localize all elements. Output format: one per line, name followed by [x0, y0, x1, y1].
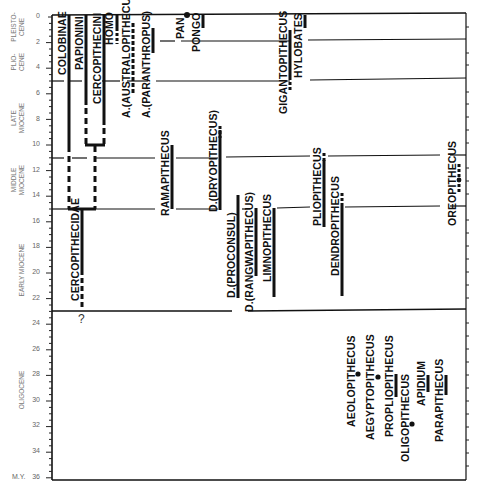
y-tick-34: 34: [24, 447, 40, 454]
y-axis-unit-label: M.Y.: [12, 473, 26, 480]
uncertain-origin-marker: ?: [78, 312, 85, 326]
y-tick-18: 18: [24, 242, 40, 249]
taxon-label-oreopithecus: OREOPITHECUS: [447, 141, 458, 226]
y-tick-30: 30: [24, 396, 40, 403]
taxon-label-australopithecus: A.(AUSTRALOPITHECUS): [121, 0, 132, 118]
taxon-label-ramapithecus: RAMAPITHECUS: [160, 130, 171, 216]
taxon-label-pliopithecus: PLIOPITHECUS: [312, 147, 323, 226]
y-tick-4: 4: [24, 63, 40, 70]
y-tick-10: 10: [24, 140, 40, 147]
y-tick-22: 22: [24, 294, 40, 301]
taxon-label-dryopithecus: D.(DRYOPITHECUS): [208, 110, 219, 212]
taxon-label-colobinae: COLOBINAE: [57, 11, 68, 75]
taxon-label-proconsul: D.(PROCONSUL): [226, 212, 237, 298]
y-tick-14: 14: [24, 191, 40, 198]
epoch-label-pleistocene: PLEISTO- CENE: [10, 12, 26, 42]
epoch-label-oligocene: OLIGOCENE: [18, 365, 26, 415]
taxon-label-cercopithecini: CERCOPITHECINI: [92, 13, 103, 104]
y-tick-16: 16: [24, 217, 40, 224]
y-tick-28: 28: [24, 370, 40, 377]
taxon-label-paranthropus: A.(PARANTHROPUS): [141, 11, 152, 118]
y-tick-32: 32: [24, 421, 40, 428]
y-tick-36: 36: [24, 473, 40, 480]
y-axis-ticks: [46, 17, 52, 478]
taxon-label-aeolopithecus: AEOLOPITHECUS: [346, 335, 357, 427]
epoch-boundaries: [52, 39, 466, 311]
taxon-label-gigantopithecus: GIGANTOPITHECUS: [278, 11, 289, 114]
epoch-label-early-miocene: EARLY MIOCENE: [18, 240, 26, 300]
y-tick-26: 26: [24, 345, 40, 352]
y-tick-12: 12: [24, 166, 40, 173]
taxon-label-aegyptopithecus: AEGYPTOPITHECUS: [365, 334, 376, 440]
taxon-label-homo: HOMO: [104, 12, 115, 45]
taxon-label-pan: PAN: [175, 17, 186, 39]
epoch-label-pliocene: PLIO- CENE: [10, 48, 26, 76]
taxon-label-apidium: APIDIUM: [416, 361, 427, 406]
epoch-label-late-miocene: LATE MIOCENE: [10, 98, 26, 138]
y-tick-20: 20: [24, 268, 40, 275]
taxon-label-pongo: PONGO: [191, 12, 202, 52]
taxon-label-hylobates: HYLOBATES: [293, 13, 304, 78]
y-tick-0: 0: [24, 12, 40, 19]
taxon-label-cercopithecidae: CERCOPITHECIDAE: [70, 198, 81, 301]
y-tick-2: 2: [24, 38, 40, 45]
taxon-label-dendropithecus: DENDROPITHECUS: [330, 176, 341, 276]
taxon-label-parapithecus: PARAPITHECUS: [434, 359, 445, 442]
taxon-label-oligopithecus: OLIGOPITHECUS: [400, 374, 411, 462]
taxon-label-limnopithecus: LIMNOPITHECUS: [262, 194, 273, 282]
taxon-label-rangwapithecus: D.(RANGWAPITHECUS): [244, 192, 255, 312]
taxon-label-papionini: PAPIONINI: [74, 16, 85, 70]
y-tick-6: 6: [24, 89, 40, 96]
taxon-label-propliopithecus: PROPLIOPITHECUS: [384, 335, 395, 437]
y-tick-8: 8: [24, 115, 40, 122]
y-tick-24: 24: [24, 319, 40, 326]
epoch-label-middle-miocene: MIDDLE MIOCENE: [10, 160, 26, 200]
